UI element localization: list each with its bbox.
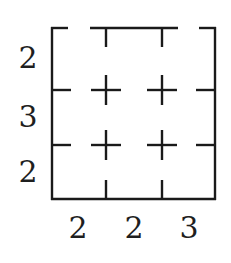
row-clue-2: 3 [11,102,45,132]
row-clue-3: 2 [11,157,45,187]
cross-bottom-right-icon [147,130,177,160]
cross-top-right-icon [147,75,177,105]
tick-marks [52,28,215,199]
cross-top-left-icon [91,75,121,105]
cross-bottom-left-icon [91,130,121,160]
interior-crosses [91,75,177,160]
grid-border [51,27,216,200]
row-clue-1: 2 [11,43,45,73]
column-clue-2: 2 [117,213,151,243]
column-clue-1: 2 [61,213,95,243]
column-clue-3: 3 [172,213,206,243]
puzzle-figure: 2 3 2 2 2 3 [0,0,231,263]
